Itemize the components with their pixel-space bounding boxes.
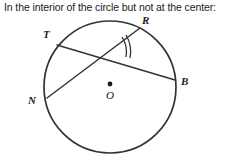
circle-diagram-svg: O T R N B [0, 12, 244, 161]
point-label-R: R [141, 14, 149, 26]
point-label-N: N [27, 94, 37, 106]
center-point-dot [108, 82, 113, 87]
circle-outline [44, 21, 176, 153]
center-label-O: O [106, 89, 114, 101]
geometry-figure: O T R N B [0, 12, 244, 161]
chord-T-B [57, 45, 175, 80]
point-label-T: T [43, 28, 51, 40]
chord-N-R [47, 28, 140, 98]
point-label-B: B [180, 75, 188, 87]
figure-page: In the interior of the circle but not at… [0, 0, 244, 161]
angle-arc-inner [122, 37, 126, 57]
